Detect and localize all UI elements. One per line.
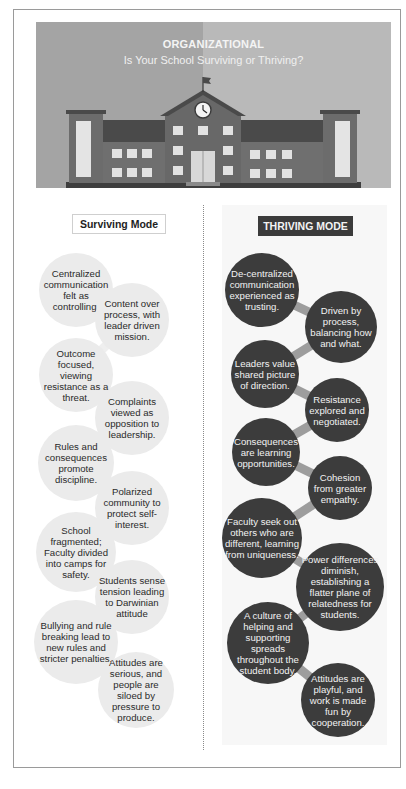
thriving-item-1: De-centralized communication experienced… bbox=[225, 253, 299, 327]
thriving-item-6: Cohesion from greater empathy. bbox=[308, 456, 372, 520]
thriving-item-8: Power differences diminish, establishing… bbox=[296, 543, 384, 631]
thriving-item-7: Faculty seek out others who are differen… bbox=[222, 498, 302, 578]
thriving-item-5: Consequences are learning opportunities. bbox=[232, 418, 300, 486]
thriving-item-10: Attitudes are playful, and work is made … bbox=[301, 663, 375, 737]
surviving-item-2: Content over process, with leader driven… bbox=[95, 283, 169, 357]
thriving-item-3: Leaders value shared picture of directio… bbox=[231, 340, 299, 408]
surviving-item-10: Attitudes are serious, and people are si… bbox=[98, 652, 174, 728]
thriving-item-4: Resistance explored and negotiated. bbox=[305, 378, 369, 442]
thriving-item-2: Driven by process, balancing how and wha… bbox=[305, 291, 377, 363]
thriving-item-9: A culture of helping and supporting spre… bbox=[227, 602, 309, 684]
